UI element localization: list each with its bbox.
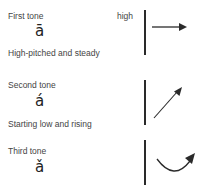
tone-1-glyph: ā (35, 22, 44, 40)
tone-1-description: High-pitched and steady (8, 48, 100, 58)
flat-arrow-icon (150, 20, 190, 34)
tone-1-name: First tone (8, 11, 43, 21)
tone-2-description: Starting low and rising (8, 119, 92, 129)
tone-2-name: Second tone (8, 80, 56, 90)
dipping-arrow-icon (152, 148, 200, 178)
tone-1-pitch-axis (144, 10, 146, 55)
tone-2-glyph: á (35, 92, 44, 110)
rising-arrow-icon (150, 84, 186, 122)
tone-3-pitch-axis (144, 140, 146, 185)
tone-2-pitch-axis (144, 80, 146, 125)
pitch-level-high-label: high (117, 11, 133, 21)
tone-3-glyph: ǎ (35, 158, 44, 176)
tone-3-name: Third tone (8, 146, 46, 156)
